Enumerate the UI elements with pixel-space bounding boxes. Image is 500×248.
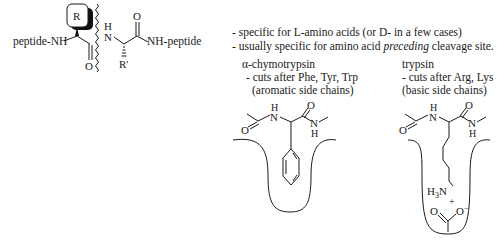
amide-n-label: N <box>104 31 112 43</box>
chymotrypsin-name: α-chymotrypsin <box>242 58 315 71</box>
r-group-label: R <box>73 10 81 22</box>
trypsin-name: trypsin <box>402 58 434 71</box>
carbonyl-o-label: O <box>85 60 93 72</box>
chymotrypsin-pocket: O H N O N H <box>233 99 336 212</box>
svg-text:O: O <box>241 124 249 136</box>
peptide-left-label: peptide-NH <box>13 35 67 48</box>
svg-text:N: N <box>429 111 437 123</box>
right-o-label: O <box>133 10 141 22</box>
svg-text:H: H <box>311 128 318 139</box>
svg-text:O: O <box>430 205 438 217</box>
svg-text:+: + <box>449 196 455 207</box>
chymotrypsin-rule: - cuts after Phe, Tyr, Trp <box>246 71 358 84</box>
trypsin-detail: (basic side chains) <box>402 84 487 97</box>
svg-text:H: H <box>469 128 476 139</box>
trypsin-rule: - cuts after Arg, Lys <box>402 71 493 84</box>
carboxylate-om-label: O− <box>456 204 469 217</box>
note-line-2: - usually specific for amino acid preced… <box>232 40 494 53</box>
peptide-right-label: NH-peptide <box>147 35 201 48</box>
svg-text:O: O <box>307 99 315 111</box>
chymotrypsin-detail: (aromatic side chains) <box>252 84 354 97</box>
ammonium-label: H3N <box>427 185 447 200</box>
svg-text:O: O <box>465 99 473 111</box>
r-prime-label: R' <box>119 58 128 70</box>
trypsin-pocket: O H N O N H H3N + O O− <box>399 99 490 234</box>
note-line-1: - specific for L-amino acids (or D- in a… <box>232 26 462 39</box>
svg-text:O: O <box>399 124 407 136</box>
svg-text:N: N <box>270 111 278 123</box>
cleavage-wavy-line <box>96 4 99 72</box>
